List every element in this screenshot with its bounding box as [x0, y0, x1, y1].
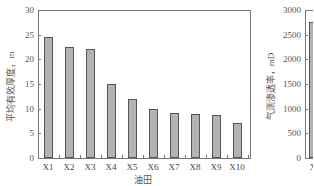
x-tick-mark — [227, 155, 228, 158]
y-tick-label: 3000 — [279, 6, 301, 15]
y-tick-label: 20 — [12, 55, 34, 64]
x-tick-mark — [206, 155, 207, 158]
y-tick-label: 0 — [12, 154, 34, 163]
x-axis-label: 油田 — [128, 173, 158, 186]
y-tick-label: 1000 — [279, 105, 301, 114]
bar-x2 — [65, 47, 74, 158]
bar-x8 — [191, 114, 200, 158]
x-tick-label: X10 — [225, 163, 249, 172]
bar-x6 — [149, 109, 158, 158]
y-tick-label: 0 — [279, 154, 301, 163]
y-tick-label: 500 — [279, 129, 301, 138]
bar-x4 — [107, 84, 116, 158]
y-tick-mark — [38, 84, 41, 85]
x-tick-label: X — [301, 163, 313, 172]
bar-x7 — [170, 113, 179, 158]
y-tick-label: 2500 — [279, 31, 301, 40]
x-tick-mark — [80, 155, 81, 158]
y-tick-mark — [38, 59, 41, 60]
y-tick-mark — [38, 158, 41, 159]
bar-x — [309, 22, 314, 158]
x-tick-mark — [248, 155, 249, 158]
y-tick-label: 30 — [12, 6, 34, 15]
y-tick-label: 5 — [12, 129, 34, 138]
x-tick-mark — [101, 155, 102, 158]
y-tick-mark — [38, 10, 41, 11]
y-tick-mark — [38, 35, 41, 36]
x-tick-mark — [164, 155, 165, 158]
y-tick-mark — [38, 109, 41, 110]
bar-x10 — [233, 123, 242, 158]
x-tick-mark — [122, 155, 123, 158]
bar-x5 — [128, 99, 137, 158]
x-tick-mark — [59, 155, 60, 158]
bar-x3 — [86, 49, 95, 158]
y-tick-mark — [305, 10, 308, 11]
y-tick-label: 15 — [12, 80, 34, 89]
y-tick-mark — [305, 158, 308, 159]
bar-x1 — [44, 37, 53, 158]
y-tick-label: 25 — [12, 31, 34, 40]
x-tick-mark — [143, 155, 144, 158]
y-tick-label: 10 — [12, 105, 34, 114]
y-tick-label: 2000 — [279, 55, 301, 64]
y-axis-label-2: 气测渗透率，mD — [264, 39, 277, 135]
y-tick-label: 1500 — [279, 80, 301, 89]
bar-x9 — [212, 115, 221, 158]
y-tick-mark — [38, 133, 41, 134]
x-tick-mark — [185, 155, 186, 158]
